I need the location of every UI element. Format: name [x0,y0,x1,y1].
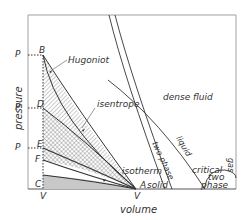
pv-diagram: B D E F C A Hugoniot isentrope isotherm … [0,0,247,220]
y-tick-PI: P [15,142,21,152]
label-E: E [37,139,43,149]
isotherm-label: isotherm [122,166,162,176]
y-tick-PD: P [15,102,21,112]
solid-label: solid [147,180,168,190]
reference-lines [28,55,43,189]
y-tick-PH: P [15,49,21,59]
hugoniot-label: Hugoniot [68,55,109,65]
label-A: A [139,180,146,190]
gas-label: gas [226,158,235,172]
dense-fluid-label: dense fluid [163,92,213,102]
label-C: C [35,179,42,189]
x-tick-V: V [40,191,47,201]
isentrope-label: isentrope [97,99,140,109]
label-F: F [35,154,41,164]
x-tick-V0: V [134,191,141,201]
label-D: D [37,99,44,109]
liquid-label: liquid [174,135,193,159]
label-B: B [39,45,45,55]
phase-label: phase [200,180,229,190]
x-axis-label: volume [120,204,157,215]
